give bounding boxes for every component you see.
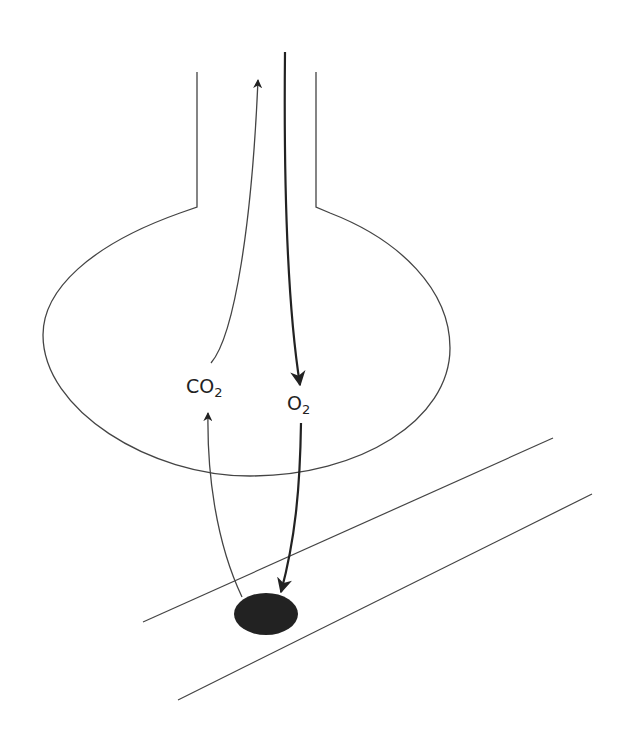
- co2-label-sub: 2: [214, 385, 222, 400]
- gas-exchange-diagram: [0, 0, 626, 738]
- o2-label-sub: 2: [302, 402, 310, 417]
- co2-label: CO2: [186, 375, 223, 400]
- alveolus-outline: [43, 72, 450, 476]
- o2-inhale-arrow: [285, 52, 300, 385]
- capillary-wall-lower: [178, 494, 592, 700]
- red-blood-cell: [234, 593, 298, 635]
- o2-label: O2: [287, 392, 310, 417]
- co2-diffusion-arrow: [208, 413, 242, 597]
- o2-diffusion-arrow: [281, 423, 301, 592]
- capillary-wall-upper: [143, 438, 553, 622]
- co2-exhale-arrow: [211, 80, 258, 363]
- co2-label-main: CO: [186, 375, 214, 397]
- o2-label-main: O: [287, 392, 302, 414]
